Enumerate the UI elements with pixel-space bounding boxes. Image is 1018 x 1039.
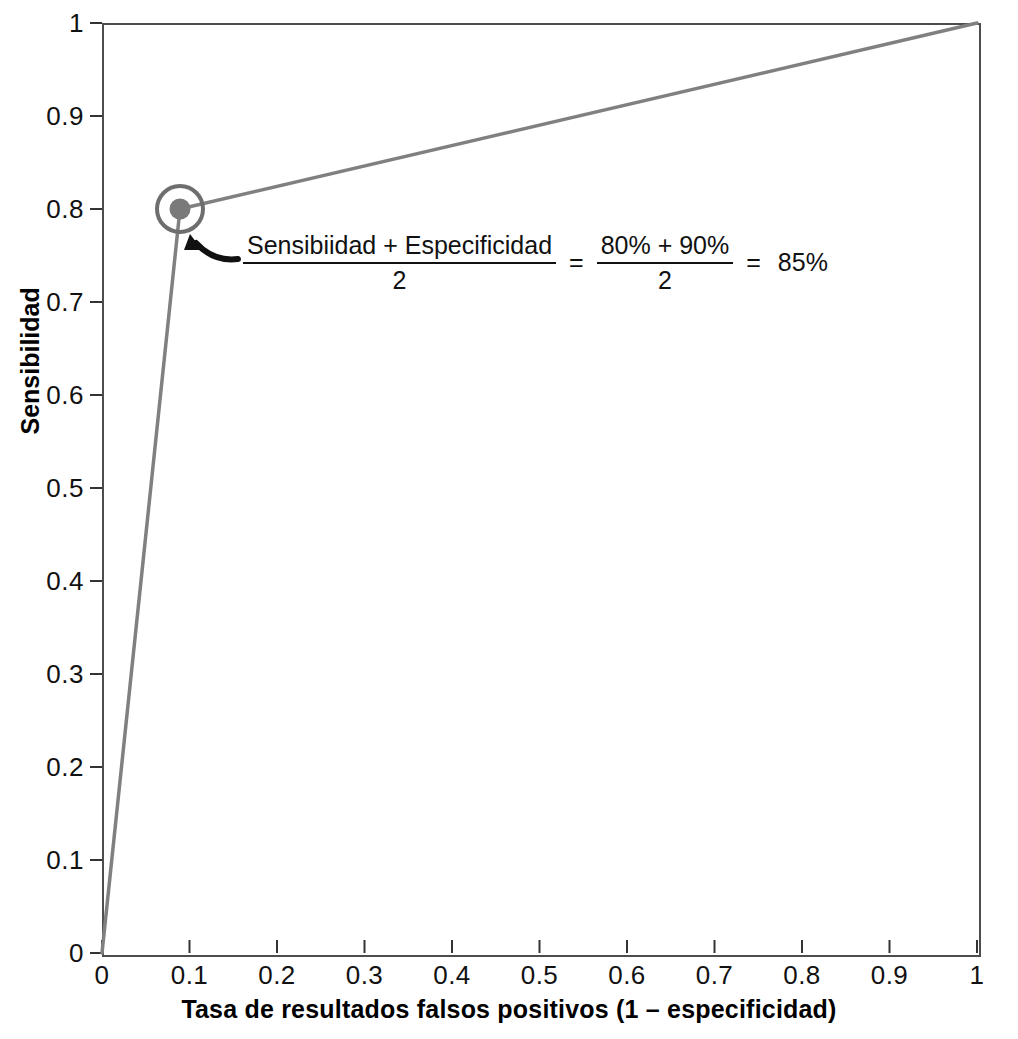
formula-numerator-right: 80% + 90% bbox=[597, 231, 734, 264]
y-axis-title: Sensibilidad bbox=[16, 395, 45, 435]
y-tick-label: 0.3 bbox=[26, 659, 84, 690]
x-tick-label: 1 bbox=[970, 960, 985, 991]
x-tick-label: 0.6 bbox=[608, 960, 646, 991]
x-tick-label: 0.2 bbox=[258, 960, 296, 991]
formula-equals-first: = bbox=[556, 248, 597, 277]
y-tick-label: 0.4 bbox=[26, 566, 84, 597]
x-tick-label: 0.9 bbox=[871, 960, 909, 991]
y-tick-label: 0 bbox=[46, 938, 84, 969]
x-tick-label: 0.4 bbox=[433, 960, 471, 991]
x-tick-label: 0.8 bbox=[783, 960, 821, 991]
x-tick-label: 0.7 bbox=[696, 960, 734, 991]
y-tick-label: 0.1 bbox=[26, 845, 84, 876]
roc-curve-figure: 0 0.1 0.2 0.3 0.4 0.5 0.6 0.7 0.8 0.9 1 … bbox=[0, 0, 1018, 1039]
y-tick-label: 0.5 bbox=[26, 473, 84, 504]
y-tick-label: 1 bbox=[46, 8, 84, 39]
youden-index-annotation: Sensibiidad + Especificidad 2 = 80% + 90… bbox=[243, 231, 828, 295]
formula-numerator-left: Sensibiidad + Especificidad bbox=[243, 231, 556, 264]
y-tick-label: 0.2 bbox=[26, 752, 84, 783]
x-axis-title: Tasa de resultados falsos positivos (1 –… bbox=[0, 995, 1018, 1024]
formula-equals-second: = bbox=[733, 248, 774, 277]
formula-fraction-right: 80% + 90% 2 bbox=[597, 231, 734, 295]
formula-result: 85% bbox=[774, 248, 828, 277]
formula-denominator-right: 2 bbox=[658, 264, 672, 295]
formula-fraction-left: Sensibiidad + Especificidad 2 bbox=[243, 231, 556, 295]
y-tick-label: 0.9 bbox=[26, 101, 84, 132]
x-tick-label: 0.3 bbox=[346, 960, 384, 991]
x-tick-label: 0 bbox=[95, 960, 110, 991]
x-tick-label: 0.1 bbox=[171, 960, 209, 991]
formula-denominator-left: 2 bbox=[393, 264, 407, 295]
y-axis-ticks bbox=[90, 23, 102, 953]
x-tick-label: 0.5 bbox=[521, 960, 559, 991]
plot-area-frame bbox=[102, 23, 981, 957]
y-tick-label: 0.8 bbox=[26, 194, 84, 225]
